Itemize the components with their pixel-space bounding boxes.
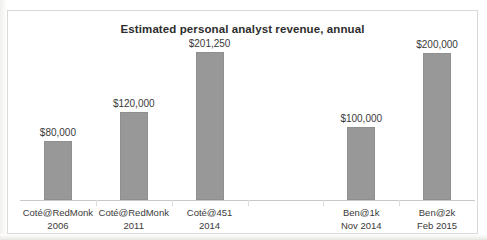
category-label: Coté@RedMonk2006 (20, 207, 96, 232)
category-label: Ben@2kFeb 2015 (399, 207, 475, 232)
bar-value-label: $200,000 (416, 39, 458, 50)
category-label-line1: Ben@1k (323, 207, 399, 220)
plot-area: $80,000$120,000$201,250$100,000$200,000 (20, 35, 475, 200)
chart-frame: Estimated personal analyst revenue, annu… (7, 10, 478, 234)
category-tick (399, 200, 400, 206)
category-label-line1: Ben@2k (399, 207, 475, 220)
bar-column: $200,000 (399, 35, 475, 200)
bar-value-label: $201,250 (189, 38, 231, 49)
bar-value-label: $120,000 (113, 98, 155, 109)
chart-title: Estimated personal analyst revenue, annu… (8, 23, 477, 35)
scan-edge-left (0, 0, 7, 240)
category-label-line2: 2014 (172, 220, 248, 233)
bar[interactable] (196, 52, 224, 200)
bar-column-empty (248, 35, 324, 200)
category-label-line1: Coté@451 (172, 207, 248, 220)
category-label-line2: Feb 2015 (399, 220, 475, 233)
category-label: Coté@RedMonk2011 (96, 207, 172, 232)
category-label-line2: 2011 (96, 220, 172, 233)
category-label-line2: Nov 2014 (323, 220, 399, 233)
category-tick (323, 200, 324, 206)
category-axis-labels: Coté@RedMonk2006Coté@RedMonk2011Coté@451… (20, 207, 475, 237)
bar[interactable] (120, 112, 148, 200)
chart-page: Estimated personal analyst revenue, annu… (0, 0, 487, 240)
category-label-line2: 2006 (20, 220, 96, 233)
bar[interactable] (423, 53, 451, 200)
bar[interactable] (44, 141, 72, 200)
category-tick (96, 200, 97, 206)
bar-column: $80,000 (20, 35, 96, 200)
category-label: Ben@1kNov 2014 (323, 207, 399, 232)
category-label-line1: Coté@RedMonk (20, 207, 96, 220)
category-tick (248, 200, 249, 206)
bar-column: $201,250 (172, 35, 248, 200)
category-label: Coté@4512014 (172, 207, 248, 232)
bar-value-label: $100,000 (340, 113, 382, 124)
bar-value-label: $80,000 (40, 127, 76, 138)
category-label-line1: Coté@RedMonk (96, 207, 172, 220)
category-tick (172, 200, 173, 206)
bar[interactable] (347, 127, 375, 200)
bar-column: $120,000 (96, 35, 172, 200)
bar-column: $100,000 (323, 35, 399, 200)
